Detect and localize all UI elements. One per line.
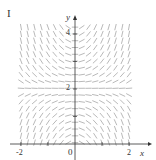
slope-segment — [45, 100, 51, 103]
slope-segment — [47, 24, 49, 30]
slope-segment — [27, 140, 28, 146]
slope-segment — [107, 119, 110, 125]
slope-segment — [47, 133, 50, 139]
slope-segment — [20, 113, 23, 119]
slope-segment — [20, 31, 21, 37]
slope-segment — [40, 140, 42, 146]
slope-segment — [33, 58, 36, 64]
slope-segment — [27, 31, 28, 37]
slope-segment — [127, 106, 130, 112]
slope-segment — [65, 101, 71, 102]
slope-segment — [128, 58, 130, 64]
slope-segment — [108, 24, 110, 30]
slope-segment — [47, 38, 50, 44]
slope-segment — [93, 59, 98, 63]
slope-segment — [79, 67, 85, 68]
slope-segment — [53, 31, 56, 37]
slope-segment — [26, 106, 30, 111]
slope-segment — [86, 45, 91, 49]
slope-segment — [92, 73, 98, 76]
slope-segment — [19, 65, 22, 71]
slope-segment — [79, 134, 85, 137]
slope-segment — [79, 108, 85, 109]
slope-segment — [27, 51, 29, 57]
slope-segment — [19, 72, 23, 77]
slope-segment — [128, 38, 129, 44]
slope-segment — [101, 31, 103, 37]
slope-segment — [45, 94, 51, 96]
slope-segment — [114, 119, 117, 125]
slope-segment — [26, 113, 29, 119]
panel-label: I — [7, 8, 11, 19]
slope-segment — [20, 44, 22, 50]
slope-segment — [99, 80, 105, 82]
slope-segment — [99, 94, 105, 96]
slope-segment — [128, 44, 130, 50]
slope-segment — [101, 38, 104, 44]
slope-segment — [122, 31, 123, 37]
slope-segment — [85, 101, 91, 103]
slope-segment — [115, 140, 117, 146]
slope-segment — [59, 127, 64, 131]
slope-segment — [39, 100, 44, 104]
slope-segment — [65, 128, 71, 131]
slope-segment — [59, 114, 65, 117]
slope-segment — [65, 74, 71, 75]
slope-segment — [33, 106, 37, 111]
slope-segment — [108, 38, 110, 44]
slope-segment — [101, 133, 104, 139]
slope-segment — [25, 100, 30, 105]
slope-segment — [38, 80, 44, 82]
slope-segment — [92, 94, 98, 95]
slope-segment — [92, 101, 98, 104]
slope-segment — [65, 39, 71, 42]
slope-segment — [34, 31, 36, 37]
slope-segment — [86, 127, 91, 131]
slope-segment — [46, 45, 49, 51]
slope-segment — [18, 94, 24, 97]
slope-segment — [52, 73, 58, 76]
slope-segment — [93, 120, 97, 125]
origin-label: 0 — [68, 148, 73, 157]
slope-segment — [94, 24, 97, 30]
slope-segment — [122, 140, 123, 146]
slope-segment — [33, 113, 36, 119]
slope-segment — [65, 134, 71, 137]
slope-segment — [53, 38, 56, 43]
slope-segment — [128, 119, 130, 125]
slope-segment — [93, 107, 98, 111]
slope-segment — [65, 53, 71, 55]
slope-segment — [93, 66, 98, 70]
slope-segment — [53, 140, 56, 146]
slope-segment — [121, 133, 123, 139]
slope-segment — [115, 24, 117, 30]
slope-segment — [128, 133, 129, 139]
slope-segment — [52, 66, 57, 70]
slope-segment — [106, 100, 111, 104]
slope-segment — [113, 72, 118, 76]
slope-segment — [128, 31, 129, 37]
slope-segment — [53, 120, 57, 125]
slope-segment — [27, 133, 29, 139]
slope-segment — [59, 107, 65, 110]
slope-segment — [38, 94, 44, 96]
slope-segment — [114, 58, 117, 64]
slope-segment — [93, 113, 98, 117]
slope-segment — [39, 113, 43, 118]
slope-segment — [19, 99, 23, 104]
slope-segment — [93, 45, 97, 50]
slope-segment — [40, 24, 42, 30]
slope-segment — [86, 67, 92, 70]
slope-segment — [52, 81, 58, 83]
slope-segment — [40, 31, 42, 37]
slope-segment — [119, 80, 125, 83]
slope-segment — [100, 126, 103, 132]
slope-segment — [59, 134, 63, 139]
slope-segment — [113, 94, 119, 96]
slope-segment — [52, 59, 57, 63]
slope-segment — [108, 140, 110, 146]
slope-segment — [106, 80, 112, 82]
slope-segment — [121, 119, 123, 125]
slope-segment — [65, 60, 71, 62]
slope-segment — [79, 128, 85, 131]
